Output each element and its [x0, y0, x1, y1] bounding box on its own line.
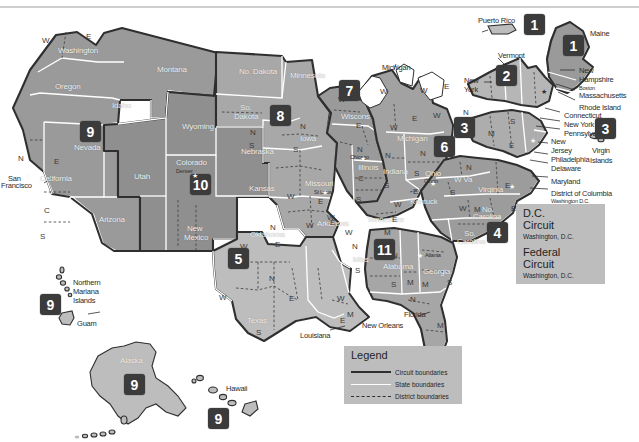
badge-circuit-9-west[interactable]: 9: [80, 121, 101, 142]
place-label-guam: Guam: [77, 320, 97, 328]
district-letter-w-56: W: [345, 229, 352, 237]
badge-circuit-7[interactable]: 7: [339, 80, 360, 101]
badge-circuit-4[interactable]: 4: [487, 222, 508, 243]
badge-circuit-6[interactable]: 6: [434, 136, 455, 157]
state-label-no-dakota: No. Dakota: [239, 68, 277, 76]
place-label-francisco: Francisco: [1, 182, 32, 190]
district-letter-w-12: W: [306, 222, 313, 230]
legend-label-district: District boundaries: [395, 393, 449, 400]
place-label-philadelphia: Philadelphia: [551, 156, 589, 164]
place-label-puerto-rico: Puerto Rico: [478, 17, 515, 25]
place-label-district-of-columbia: District of Columbia: [551, 190, 612, 198]
legend: Legend Circuit boundaries State boundari…: [344, 346, 462, 404]
district-letter-m-55: M: [384, 229, 390, 237]
state-label-oregon: Oregon: [55, 83, 80, 91]
state-label-miss: Miss: [353, 256, 369, 264]
district-letter-n-43: N: [463, 109, 469, 117]
district-letter-e-41: E: [444, 83, 449, 91]
state-label-georgia: Georgia: [423, 268, 450, 276]
place-label-florida: Florida: [404, 311, 426, 319]
badge-circuit-3[interactable]: 3: [454, 117, 475, 138]
district-letter-w-21: W: [337, 295, 344, 303]
district-letter-m-64: M: [437, 322, 443, 330]
district-letter-w-40: W: [420, 87, 427, 95]
district-letter-m-59: M: [407, 279, 413, 287]
state-label-missouri: Missouri: [305, 180, 333, 188]
place-label-virgin: Virgin: [592, 147, 610, 155]
district-letter-e-38: E: [413, 188, 418, 196]
district-letter-c-4: C: [44, 207, 50, 215]
badge-circuit-9-alaska[interactable]: 9: [124, 374, 145, 395]
district-letter-s-7: S: [249, 142, 254, 150]
state-label-nebraska: Nebraska: [241, 148, 274, 156]
badge-circuit-1-maine[interactable]: 1: [563, 35, 584, 56]
circuit-boundary-swatch: [351, 371, 391, 373]
legend-row-circuit: Circuit boundaries: [351, 368, 447, 376]
state-label-nevada: Nevada: [74, 144, 100, 152]
district-letter-e-27: E: [356, 122, 361, 130]
district-letter-e-1: E: [86, 33, 91, 41]
state-label-virginia: Virginia: [478, 186, 503, 194]
district-letter-s-35: S: [384, 182, 389, 190]
state-label-kentuck: Kentuck: [410, 198, 438, 206]
place-label-new-york: New York: [564, 121, 594, 129]
state-label-carolina: Carolina: [473, 213, 501, 221]
badge-circuit-9-pacific[interactable]: 9: [40, 294, 61, 315]
badge-circuit-8[interactable]: 8: [270, 105, 291, 126]
badge-circuit-3-virgin-islands[interactable]: 3: [595, 118, 616, 139]
district-letter-n-28: N: [357, 146, 363, 154]
district-letter-s-5: S: [40, 233, 45, 241]
state-label-new: New: [187, 225, 202, 233]
state-label-utah: Utah: [134, 173, 150, 181]
dc-circuit-line1: D.C.: [523, 208, 598, 220]
district-letter-s-9: S: [293, 146, 298, 154]
place-label-massachusetts: Massachusetts: [579, 92, 626, 100]
city-label-atlanta: Atlanta: [425, 253, 441, 259]
state-label-minnesota: Minnesota: [290, 72, 325, 80]
federal-circuit-location: Washington, D.C.: [523, 272, 598, 279]
place-label-york: York: [464, 86, 478, 94]
state-label-california: California: [40, 175, 72, 183]
place-label-islands: Islands: [73, 297, 95, 305]
legend-title: Legend: [351, 349, 388, 361]
district-letter-w-0: W: [42, 37, 49, 45]
state-label-illinois: Illinois: [358, 164, 379, 172]
district-letter-n-14: N: [270, 224, 276, 232]
place-label-new: New: [464, 77, 478, 85]
state-label-indiana: Indiana: [383, 168, 408, 176]
district-letter-w-51: W: [459, 205, 466, 213]
state-label-dakota: Dakota: [234, 113, 258, 121]
badge-circuit-9-hawaii[interactable]: 9: [208, 408, 229, 429]
state-label-montana: Montana: [157, 66, 187, 74]
district-letter-s-20: S: [256, 329, 261, 337]
place-label-maryland: Maryland: [551, 178, 580, 186]
state-label-oklahoma: Oklahoma: [250, 231, 285, 239]
state-boundary-swatch: [351, 384, 391, 385]
legend-label-state: State boundaries: [395, 381, 444, 388]
badge-circuit-2[interactable]: 2: [496, 65, 517, 86]
badge-circuit-5[interactable]: 5: [228, 248, 249, 269]
district-letter-n-48: N: [466, 164, 472, 172]
place-label-hawaii: Hawaii: [226, 385, 247, 393]
state-label-michigan: Michigan: [397, 135, 427, 143]
district-letter-n-6: N: [250, 129, 256, 137]
place-label-new-orleans: New Orleans: [362, 322, 403, 330]
state-label-tennessee: Tennessee: [367, 216, 404, 224]
badge-circuit-11[interactable]: 11: [374, 239, 395, 260]
district-letter-e-11: E: [318, 198, 323, 206]
federal-circuit-line1: Federal: [523, 247, 598, 259]
district-letter-m-52: M: [474, 206, 480, 214]
district-letter-s-23: S: [355, 267, 360, 275]
place-label-new: New: [579, 67, 593, 75]
district-letter-s-49: S: [450, 189, 455, 197]
district-letter-w-32: W: [390, 124, 397, 132]
state-label-carolina: Carolina: [457, 238, 485, 246]
district-letter-e-33: E: [412, 115, 417, 123]
district-letter-s-30: S: [356, 196, 361, 204]
district-letter-n-36: N: [420, 150, 426, 158]
district-letter-s-37: S: [414, 170, 419, 178]
district-letter-n-8: N: [300, 123, 306, 131]
badge-circuit-1-puerto-rico[interactable]: 1: [524, 14, 545, 35]
dc-circuit-info-box: D.C. Circuit Washington, D.C.: [516, 204, 605, 245]
place-label-michigan: Michigan: [382, 64, 410, 72]
